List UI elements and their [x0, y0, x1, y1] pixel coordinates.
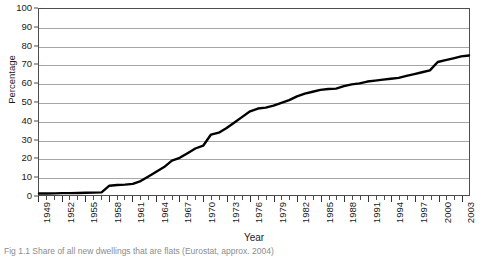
- x-tick-minor: [211, 196, 212, 200]
- x-tick-minor: [281, 196, 282, 200]
- x-tick-minor: [305, 196, 306, 200]
- x-tick-label: 1985: [325, 202, 335, 223]
- x-tick-minor: [219, 196, 220, 200]
- x-tick-minor: [195, 196, 196, 200]
- x-tick-minor: [172, 196, 173, 200]
- x-axis-labels: 1949195219551958196119641967197019731976…: [38, 202, 470, 234]
- y-axis-title: Percentage: [6, 40, 17, 120]
- x-tick-minor: [242, 196, 243, 200]
- x-tick-minor: [289, 196, 290, 200]
- x-tick-label: 1988: [348, 202, 358, 223]
- x-tick-minor: [187, 196, 188, 200]
- x-tick-minor: [336, 196, 337, 200]
- x-tick-label: 1967: [183, 202, 193, 223]
- x-tick-minor: [101, 196, 102, 200]
- x-tick-minor: [329, 196, 330, 200]
- x-tick-minor: [54, 196, 55, 200]
- x-tick-minor: [93, 196, 94, 200]
- x-tick-minor: [69, 196, 70, 200]
- x-tick-minor: [234, 196, 235, 200]
- x-tick-minor: [77, 196, 78, 200]
- x-tick-minor: [352, 196, 353, 200]
- x-tick-label: 1976: [254, 202, 264, 223]
- x-tick-label: 1973: [231, 202, 241, 223]
- x-tick-label: 1958: [113, 202, 123, 223]
- x-tick-label: 1979: [278, 202, 288, 223]
- x-tick-minor: [266, 196, 267, 200]
- y-tick-label: 30: [21, 135, 32, 145]
- x-tick-label: 2003: [466, 202, 476, 223]
- x-tick-label: 1982: [301, 202, 311, 223]
- x-tick-label: 1997: [419, 202, 429, 223]
- y-tick-label: 70: [21, 59, 32, 69]
- y-tick-label: 90: [21, 22, 32, 32]
- x-tick-minor: [124, 196, 125, 200]
- x-tick-minor: [117, 196, 118, 200]
- y-tick-label: 40: [21, 116, 32, 126]
- x-tick-minor: [376, 196, 377, 200]
- x-tick-minor: [431, 196, 432, 200]
- x-tick-label: 1955: [89, 202, 99, 223]
- x-tick-label: 1952: [66, 202, 76, 223]
- x-tick-label: 2000: [443, 202, 453, 223]
- x-tick-label: 1961: [136, 202, 146, 223]
- x-tick-minor: [423, 196, 424, 200]
- x-tick-label: 1949: [42, 202, 52, 223]
- plot-area: [38, 8, 470, 196]
- x-tick-minor: [446, 196, 447, 200]
- y-tick-label: 0: [27, 191, 32, 201]
- x-tick-minor: [454, 196, 455, 200]
- y-tick-label: 100: [16, 3, 32, 13]
- data-series-line: [39, 9, 469, 195]
- x-tick-minor: [399, 196, 400, 200]
- x-tick-minor: [313, 196, 314, 200]
- x-tick-minor: [407, 196, 408, 200]
- y-tick-label: 10: [21, 172, 32, 182]
- x-tick-minor: [360, 196, 361, 200]
- x-tick-minor: [46, 196, 47, 200]
- y-tick-label: 60: [21, 78, 32, 88]
- x-tick-label: 1991: [372, 202, 382, 223]
- x-tick-minor: [148, 196, 149, 200]
- x-tick-minor: [384, 196, 385, 200]
- y-tick-label: 20: [21, 153, 32, 163]
- x-tick-minor: [140, 196, 141, 200]
- figure-caption: Fig 1.1 Share of all new dwellings that …: [4, 246, 424, 256]
- x-tick-label: 1994: [395, 202, 405, 223]
- y-tick-label: 80: [21, 41, 32, 51]
- x-axis-title: Year: [38, 232, 470, 243]
- x-tick-minor: [164, 196, 165, 200]
- y-tick-label: 50: [21, 97, 32, 107]
- x-tick-label: 1964: [160, 202, 170, 223]
- x-tick-label: 1970: [207, 202, 217, 223]
- x-tick-minor: [258, 196, 259, 200]
